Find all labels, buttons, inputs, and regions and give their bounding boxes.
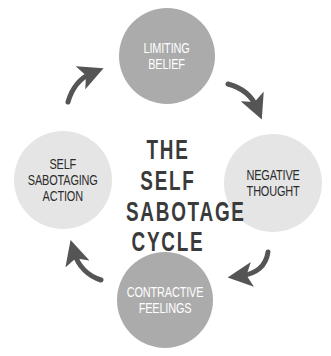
- node-label-line: SELF: [28, 156, 98, 172]
- node-contractive-feelings: CONTRACTIVE FEELINGS: [117, 252, 213, 348]
- node-label-line: SABOTAGING: [28, 172, 98, 188]
- arrow-left-to-top-icon: [68, 73, 92, 102]
- arrow-right-to-bottom-icon: [240, 252, 268, 276]
- node-label-line: ACTION: [28, 188, 98, 204]
- title-line: THE SELF: [126, 135, 210, 197]
- node-self-sabotaging-action: SELF SABOTAGING ACTION: [14, 131, 112, 229]
- arrow-top-to-right-icon: [228, 84, 257, 108]
- node-label-line: FEELINGS: [127, 300, 204, 316]
- node-label-line: CONTRACTIVE: [127, 284, 204, 300]
- title-line: CYCLE: [126, 227, 210, 258]
- diagram-title: THE SELF SABOTAGE CYCLE: [108, 135, 228, 258]
- node-label-line: THOUGHT: [246, 183, 299, 199]
- node-label-line: NEGATIVE: [246, 167, 299, 183]
- node-label-line: LIMITING: [144, 40, 190, 56]
- node-limiting-belief: LIMITING BELIEF: [119, 8, 215, 104]
- title-line: SABOTAGE: [126, 197, 210, 228]
- arrow-bottom-to-left-icon: [74, 252, 101, 280]
- node-label-line: BELIEF: [144, 56, 190, 72]
